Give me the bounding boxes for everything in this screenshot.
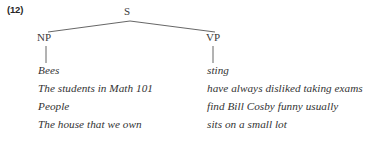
np-phrase: The house that we own bbox=[38, 118, 142, 130]
tree-node-vp: VP bbox=[206, 31, 220, 43]
vp-phrase: have always disliked taking exams bbox=[207, 82, 363, 94]
table-row: Bees sting bbox=[0, 64, 385, 82]
table-row: People find Bill Cosby funny usually bbox=[0, 100, 385, 118]
syntax-tree-figure: (12) S NP VP Bees sting The students in … bbox=[0, 0, 385, 153]
vp-phrase: sits on a small lot bbox=[207, 118, 287, 130]
branch-s-to-vp bbox=[130, 21, 215, 32]
np-phrase: Bees bbox=[38, 64, 59, 76]
example-phrase-list: Bees sting The students in Math 101 have… bbox=[0, 64, 385, 136]
vp-phrase: sting bbox=[207, 64, 229, 76]
tree-diagram bbox=[0, 0, 385, 70]
table-row: The house that we own sits on a small lo… bbox=[0, 118, 385, 136]
tree-node-np: NP bbox=[37, 31, 51, 43]
np-phrase: The students in Math 101 bbox=[38, 82, 153, 94]
tree-node-s: S bbox=[124, 5, 130, 17]
vp-phrase: find Bill Cosby funny usually bbox=[207, 100, 338, 112]
table-row: The students in Math 101 have always dis… bbox=[0, 82, 385, 100]
branch-s-to-np bbox=[48, 21, 130, 32]
np-phrase: People bbox=[38, 100, 69, 112]
